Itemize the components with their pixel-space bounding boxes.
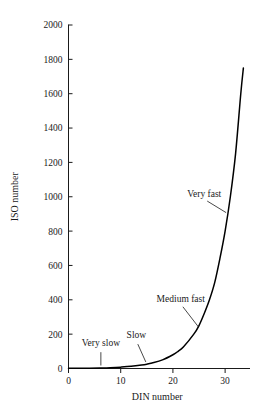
y-tick-label: 1800 bbox=[44, 55, 63, 65]
y-tick-label: 0 bbox=[58, 364, 63, 374]
y-tick-label: 1000 bbox=[44, 192, 63, 202]
y-tick-label: 2000 bbox=[44, 20, 63, 30]
annotation-label: Medium fast bbox=[157, 294, 206, 304]
y-tick-label: 1600 bbox=[44, 89, 63, 99]
x-tick-label: 0 bbox=[66, 376, 71, 386]
y-axis-title: ISO number bbox=[9, 172, 20, 222]
x-tick-label: 20 bbox=[168, 376, 178, 386]
y-tick-label: 1400 bbox=[44, 123, 63, 133]
y-tick-label: 600 bbox=[48, 261, 63, 271]
x-axis-title: DIN number bbox=[132, 391, 183, 402]
annotation-label: Very slow bbox=[82, 338, 120, 348]
annotation-label: Very fast bbox=[187, 189, 221, 199]
chart-figure: 0200400600800100012001400160018002000 01… bbox=[0, 0, 258, 420]
y-tick-label: 1200 bbox=[44, 158, 63, 168]
y-tick-label: 400 bbox=[48, 295, 63, 305]
x-tick-label: 10 bbox=[116, 376, 126, 386]
chart-background bbox=[0, 0, 258, 420]
y-tick-label: 800 bbox=[48, 227, 63, 237]
y-tick-label: 200 bbox=[48, 330, 63, 340]
annotation-label: Slow bbox=[127, 330, 147, 340]
x-tick-label: 30 bbox=[220, 376, 230, 386]
chart-svg: 0200400600800100012001400160018002000 01… bbox=[0, 0, 258, 420]
